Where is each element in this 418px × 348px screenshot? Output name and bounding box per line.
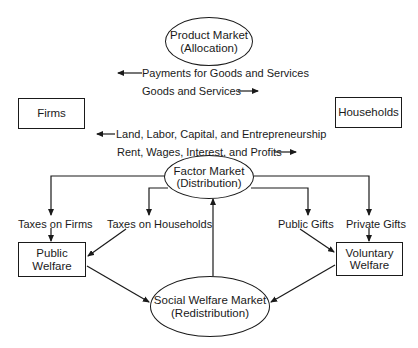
vw-to-swm	[271, 265, 335, 302]
public-welfare-line1: Public	[36, 247, 67, 260]
to-private-gifts	[254, 176, 369, 215]
factor-market-title: Factor Market	[174, 165, 245, 178]
voluntary-welfare-line1: Voluntary	[346, 247, 394, 260]
land-labor-label: Land, Labor, Capital, and Entrepreneursh…	[116, 128, 326, 140]
factor-market-node: Factor Market (Distribution)	[164, 155, 254, 199]
public-gifts-label: Public Gifts	[278, 218, 334, 230]
goods-services-label: Goods and Services	[142, 85, 241, 97]
voluntary-welfare-node: Voluntary Welfare	[336, 242, 403, 276]
to-taxes-on-firms	[51, 176, 165, 215]
voluntary-welfare-line2: Welfare	[350, 259, 389, 272]
product-market-node: Product Market (Allocation)	[165, 17, 253, 66]
private-gifts-label: Private Gifts	[346, 218, 406, 230]
social-welfare-market-subtitle: (Redistribution)	[171, 307, 249, 320]
factor-market-subtitle: (Distribution)	[176, 177, 241, 190]
firms-node: Firms	[18, 98, 85, 129]
taxes-on-firms-label: Taxes on Firms	[18, 218, 93, 230]
public-welfare-line2: Welfare	[32, 260, 71, 273]
public-gifts-to-vw	[300, 229, 334, 252]
payments-label: Payments for Goods and Services	[142, 67, 309, 79]
product-market-subtitle: (Allocation)	[180, 42, 238, 55]
to-taxes-on-households	[149, 188, 168, 215]
households-label: Households	[338, 106, 399, 119]
taxes-households-to-pw	[88, 229, 126, 256]
social-welfare-market-node: Social Welfare Market (Redistribution)	[150, 276, 270, 337]
households-node: Households	[335, 97, 402, 128]
firms-label: Firms	[37, 107, 66, 120]
public-welfare-node: Public Welfare	[18, 242, 86, 277]
product-market-title: Product Market	[170, 29, 248, 42]
social-welfare-market-title: Social Welfare Market	[154, 294, 266, 307]
taxes-on-households-label: Taxes on Households	[107, 218, 212, 230]
to-public-gifts	[251, 188, 308, 215]
pw-to-swm	[87, 266, 149, 302]
